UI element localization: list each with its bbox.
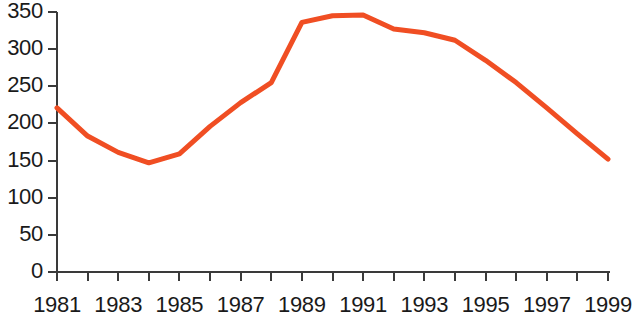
x-axis-tick-label: 1989: [272, 294, 332, 316]
data-series-group: [57, 15, 608, 163]
y-axis-tick-label: 250: [7, 74, 43, 96]
y-axis-tick-label: 150: [7, 149, 43, 171]
y-axis-tick-label: 0: [31, 260, 43, 282]
x-axis-tick-label: 1987: [211, 294, 271, 316]
x-axis-tick-label: 1983: [88, 294, 148, 316]
data-line: [57, 15, 608, 163]
x-axis-tick-label: 1991: [333, 294, 393, 316]
y-axis-tick-label: 300: [7, 37, 43, 59]
y-axis-tick-label: 350: [7, 0, 43, 22]
x-axis-tick-label: 1993: [394, 294, 454, 316]
y-axis-tick-label: 50: [19, 223, 43, 245]
x-axis-tick-label: 1997: [517, 294, 577, 316]
x-axis-tick-label: 1981: [27, 294, 87, 316]
y-axis-tick-label: 200: [7, 111, 43, 133]
x-axis-tick-label: 1995: [456, 294, 516, 316]
x-axis-tick-label: 1999: [578, 294, 636, 316]
y-axis-tick-label: 100: [7, 186, 43, 208]
chart-axes: [48, 12, 610, 281]
x-axis-tick-label: 1985: [149, 294, 209, 316]
